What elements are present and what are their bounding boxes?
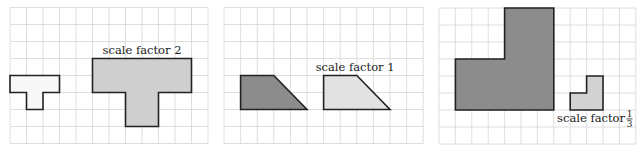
reduced-l-shape [570, 76, 603, 110]
panel-1: scale factor 2 [10, 8, 208, 144]
scale-factor-label: scale factor [557, 111, 625, 125]
original-l-shape [455, 8, 553, 110]
scale-factor-label: scale factor 1 [316, 60, 395, 74]
panel-2: scale factor 1 [224, 8, 423, 144]
fraction-numerator: 1 [627, 109, 633, 119]
fraction-denominator: 3 [627, 119, 633, 129]
original-t-shape [10, 76, 60, 110]
scale-factor-diagram: scale factor 2scale factor 1scale factor… [0, 0, 641, 153]
panel-3: scale factor 13 [439, 8, 636, 144]
enlarged-t-shape [93, 59, 192, 127]
scale-factor-label: scale factor 2 [103, 43, 182, 57]
